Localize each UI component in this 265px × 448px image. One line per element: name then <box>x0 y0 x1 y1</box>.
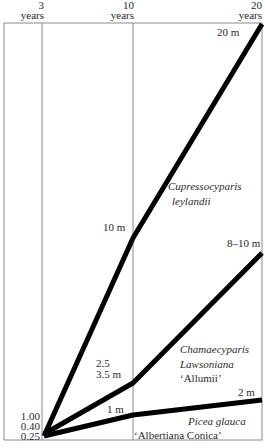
chamaecyparis-end-value: 8–10 m <box>227 238 260 249</box>
picea-name-line1: Picea glauca <box>188 416 246 427</box>
x-tick-20-years: 20 years <box>223 0 262 20</box>
cupressocyparis-name-line2: leylandii <box>172 196 211 207</box>
picea-mid-value: 1 m <box>107 404 124 415</box>
picea-end-value: 2 m <box>238 387 255 398</box>
x-tick-unit: years <box>223 10 262 20</box>
chamaecyparis-name-line3: ‘Allumii’ <box>180 373 222 384</box>
x-tick-unit: years <box>96 10 134 20</box>
chamaecyparis-mid-value-2: 3.5 m <box>96 369 121 380</box>
chamaecyparis-name-line1: Chamaecyparis <box>180 344 249 355</box>
x-tick-10-years: 10 years <box>96 0 134 20</box>
cupressocyparis-name-line1: Cupressocyparis <box>168 181 242 192</box>
cupressocyparis-mid-value: 10 m <box>103 222 125 233</box>
start-value-picea: 0.25 <box>10 431 40 442</box>
series-line-cupressocyparis <box>44 24 262 436</box>
chart-plot-area <box>0 0 265 448</box>
picea-name-line2: ‘Albertiana Conica’ <box>134 430 222 441</box>
x-tick-unit: years <box>6 10 44 20</box>
chamaecyparis-name-line2: Lawsoniana <box>180 359 234 370</box>
cupressocyparis-end-value: 20 m <box>217 27 239 38</box>
x-tick-3-years: 3 years <box>6 0 44 20</box>
growth-chart: 3 years 10 years 20 years 20 m 10 m Cupr… <box>0 0 265 448</box>
